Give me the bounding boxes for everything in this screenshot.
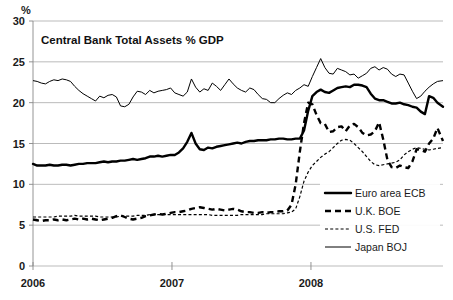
tickmarks-group [29, 21, 311, 270]
y-tick-label-30: 30 [13, 15, 25, 27]
series-line-euro-area-ecb [33, 85, 443, 166]
y-tick-label-25: 25 [13, 56, 25, 68]
x-tick-label-2008: 2008 [299, 277, 323, 289]
y-tick-label-10: 10 [13, 178, 25, 190]
chart-title: Central Bank Total Assets % GDP [41, 34, 224, 46]
legend-label-u-k-boe: U.K. BOE [355, 205, 401, 217]
legend-label-japan-boj: Japan BOJ [355, 241, 407, 253]
legend-label-euro-area-ecb: Euro area ECB [355, 187, 426, 199]
line-chart: 051015202530 200620072008 % Central Bank… [0, 0, 453, 300]
y-tick-label-15: 15 [13, 138, 25, 150]
y-tick-labels-group: 051015202530 [13, 15, 25, 272]
y-tick-label-5: 5 [19, 219, 25, 231]
y-tick-label-0: 0 [19, 260, 25, 272]
y-tick-label-20: 20 [13, 97, 25, 109]
x-tick-label-2006: 2006 [21, 277, 45, 289]
legend-label-u-s-fed: U.S. FED [355, 223, 400, 235]
chart-legend: Euro area ECBU.K. BOEU.S. FEDJapan BOJ [320, 181, 440, 259]
x-tick-label-2007: 2007 [160, 277, 184, 289]
y-axis-title: % [21, 4, 31, 16]
x-tick-labels-group: 200620072008 [21, 277, 323, 289]
chart-container: 051015202530 200620072008 % Central Bank… [0, 0, 453, 300]
